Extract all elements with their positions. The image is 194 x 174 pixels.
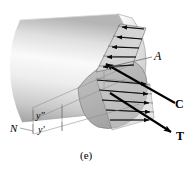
- figure-caption: (e): [80, 150, 92, 161]
- figure-container: A C T N y″ y′ (e): [0, 0, 194, 174]
- label-compression-force: C: [175, 98, 184, 110]
- label-distance-upper: y″: [36, 111, 45, 121]
- label-tension-force: T: [176, 130, 184, 142]
- label-neutral-axis: N: [10, 123, 17, 134]
- label-distance-lower: y′: [38, 125, 45, 135]
- engineering-section-diagram: [0, 0, 194, 174]
- label-area: A: [154, 50, 161, 62]
- neutral-axis-leader: [20, 128, 33, 131]
